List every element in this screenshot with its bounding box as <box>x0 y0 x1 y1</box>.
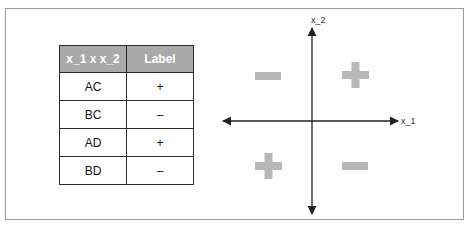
y-axis-label: x_2 <box>311 15 326 25</box>
quadrant-plot: x_1 x_2 <box>0 0 470 228</box>
minus-icon <box>255 72 281 80</box>
minus-icon <box>342 162 368 170</box>
plus-icon <box>342 62 369 88</box>
x-axis-label: x_1 <box>401 116 416 126</box>
plus-icon <box>255 153 282 179</box>
